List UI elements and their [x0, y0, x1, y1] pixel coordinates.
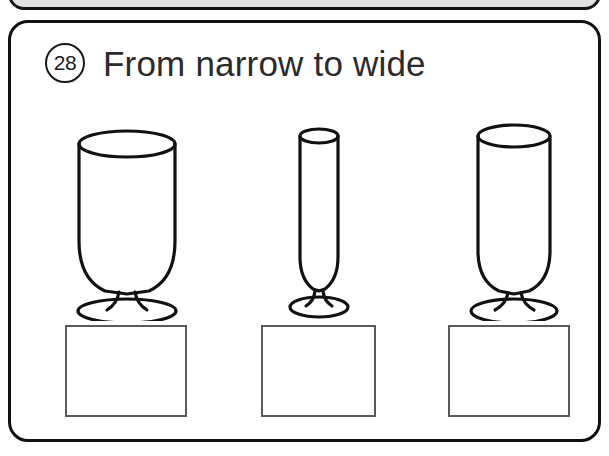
- narrow-glass-icon: [264, 101, 374, 321]
- medium-glass-icon: [449, 101, 579, 321]
- exercise-header: 28 From narrow to wide: [45, 35, 426, 91]
- worksheet-page: 28 From narrow to wide: [0, 0, 609, 456]
- glass-item-narrow[interactable]: [264, 101, 374, 321]
- answer-box-1[interactable]: [65, 325, 187, 417]
- wide-glass-icon: [57, 101, 197, 321]
- exercise-number-badge: 28: [45, 43, 85, 83]
- answer-boxes-row: [11, 325, 598, 423]
- answer-box-2[interactable]: [261, 325, 376, 417]
- previous-exercise-card: [8, 0, 601, 10]
- answer-box-3[interactable]: [448, 325, 570, 417]
- glasses-row: [11, 101, 598, 321]
- exercise-card: 28 From narrow to wide: [8, 20, 601, 442]
- glass-item-medium[interactable]: [449, 101, 579, 321]
- exercise-title: From narrow to wide: [103, 46, 426, 81]
- glass-item-wide[interactable]: [57, 101, 197, 321]
